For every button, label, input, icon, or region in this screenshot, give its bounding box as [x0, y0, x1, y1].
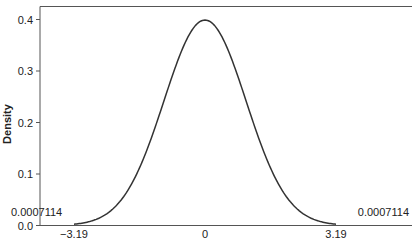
y-tick-label: 0.0 [18, 220, 33, 232]
x-tick-label: 0 [202, 228, 208, 240]
annotation-left-tail: 0.0007114 [11, 206, 62, 218]
y-tick-label: 0.1 [18, 168, 33, 180]
x-tick-label: −3.19 [60, 228, 88, 240]
y-tick-label: 0.3 [18, 65, 33, 77]
y-axis-label: Density [1, 103, 13, 144]
density-chart: 0.00.10.20.30.4 −3.1903.19 0.0007114 0.0… [0, 0, 412, 241]
y-tick-label: 0.2 [18, 117, 33, 129]
density-curve [74, 20, 336, 224]
y-axis-ticks: 0.00.10.20.30.4 [18, 14, 40, 232]
y-tick-label: 0.4 [18, 14, 33, 26]
annotation-right-tail: 0.0007114 [358, 206, 409, 218]
x-tick-label: 3.19 [325, 228, 346, 240]
x-axis-ticks: −3.1903.19 [60, 228, 347, 240]
